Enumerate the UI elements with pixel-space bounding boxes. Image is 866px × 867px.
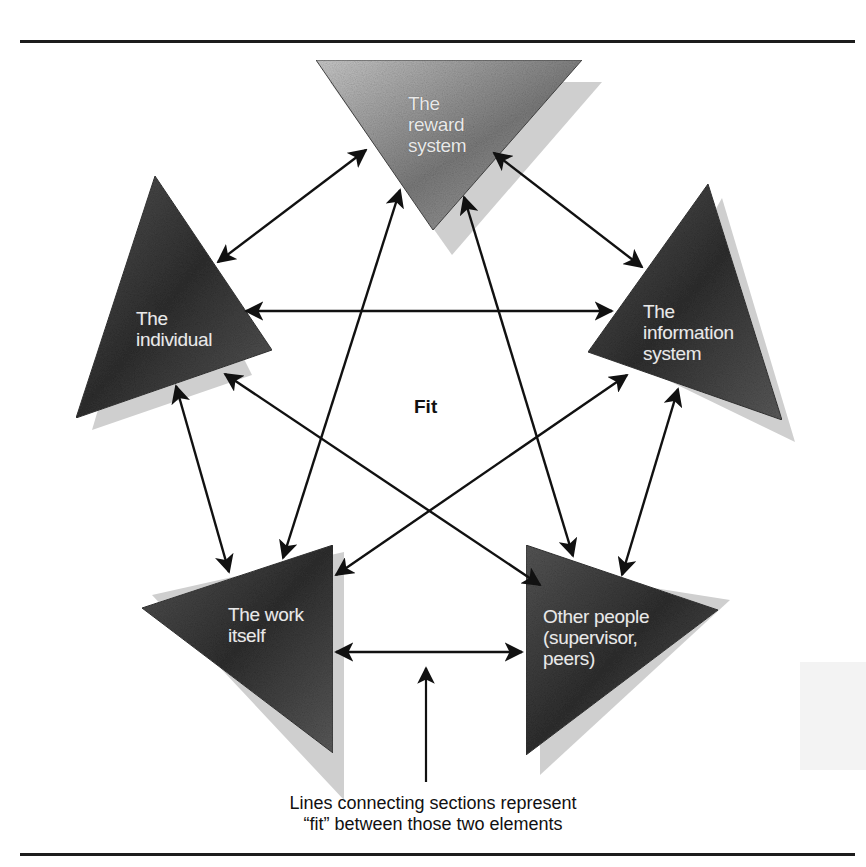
figure-caption: Lines connecting sections represent “fit… [0,793,866,835]
label-line: The [643,301,734,322]
caption-line-1: Lines connecting sections represent [0,793,866,814]
triangle-individual [76,176,272,418]
label-line: system [643,343,734,364]
label-line: information [643,322,734,343]
bottom-rule [20,853,855,856]
label-line: peers) [543,648,649,669]
triangle-work-itself [142,545,333,753]
label-other-people: Other people (supervisor, peers) [543,606,649,669]
arrow-information-others [622,389,678,575]
arrow-reward-others [464,197,573,556]
label-line: system [408,135,466,156]
label-line: (supervisor, [543,627,649,648]
label-line: The [136,308,212,329]
label-reward-system: The reward system [408,93,466,156]
arrow-individual-work [176,386,229,572]
arrow-reward-work [283,190,400,558]
label-work-itself: The work itself [228,604,304,646]
label-individual: The individual [136,308,212,350]
label-line: The work [228,604,304,625]
label-line: reward [408,114,466,135]
arrow-individual-others [225,374,540,585]
label-line: Other people [543,606,649,627]
arrow-reward-information [494,153,642,267]
label-line: The [408,93,466,114]
caption-line-2: “fit” between those two elements [0,814,866,835]
center-fit-label: Fit [414,396,437,418]
arrow-individual-reward [218,150,366,262]
label-line: individual [136,329,212,350]
label-information-system: The information system [643,301,734,364]
label-line: itself [228,625,304,646]
